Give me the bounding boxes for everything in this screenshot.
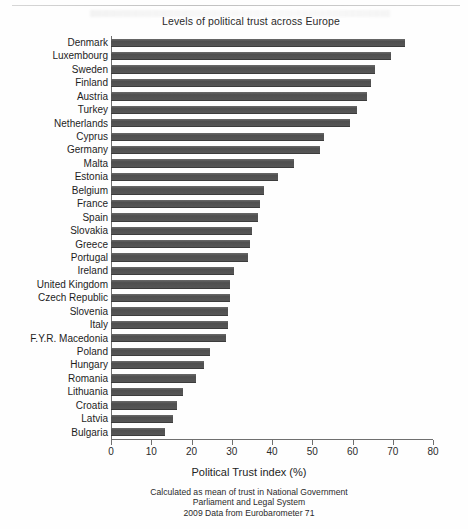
bar (111, 374, 196, 382)
bar-row: Finland (111, 76, 433, 89)
bar-row: Portugal (111, 251, 433, 264)
category-label: Austria (0, 90, 108, 103)
x-tick-label: 30 (226, 446, 237, 457)
bar (111, 213, 258, 221)
bar (111, 361, 204, 369)
bar (111, 334, 226, 342)
bar-row: Italy (111, 318, 433, 331)
category-label: Romania (0, 372, 108, 385)
x-tick (272, 440, 273, 445)
bar (111, 52, 391, 60)
bar-row: Bulgaria (111, 426, 433, 439)
bar (111, 159, 294, 167)
x-tick (312, 440, 313, 445)
bar-row: Austria (111, 90, 433, 103)
x-tick (232, 440, 233, 445)
figure-caption-cropped (96, 522, 372, 528)
category-label: United Kingdom (0, 278, 108, 291)
bar-row: Latvia (111, 412, 433, 425)
x-tick-label: 20 (186, 446, 197, 457)
category-label: Poland (0, 345, 108, 358)
bar-row: Greece (111, 238, 433, 251)
category-label: Croatia (0, 399, 108, 412)
x-tick (393, 440, 394, 445)
bar-row: Estonia (111, 170, 433, 183)
bar-rows: DenmarkLuxembourgSwedenFinlandAustriaTur… (111, 36, 433, 439)
x-axis-title: Political Trust index (%) (0, 466, 468, 478)
bar (111, 388, 183, 396)
bar (111, 267, 234, 275)
bar-row: Ireland (111, 264, 433, 277)
category-label: Slovenia (0, 305, 108, 318)
category-label: Spain (0, 211, 108, 224)
bar-row: Czech Republic (111, 291, 433, 304)
x-tick-label: 40 (266, 446, 277, 457)
caption-line-2: Parliament and Legal System (30, 497, 468, 507)
x-tick-label: 80 (427, 446, 438, 457)
bar-row: Romania (111, 372, 433, 385)
bar (111, 186, 264, 194)
category-label: Sweden (0, 63, 108, 76)
bar-row: Malta (111, 157, 433, 170)
bar-row: F.Y.R. Macedonia (111, 332, 433, 345)
category-label: Cyprus (0, 130, 108, 143)
bar-row: Slovenia (111, 305, 433, 318)
category-label: Italy (0, 318, 108, 331)
category-label: Estonia (0, 170, 108, 183)
x-tick (192, 440, 193, 445)
bar (111, 321, 228, 329)
bar (111, 240, 250, 248)
x-tick-label: 70 (387, 446, 398, 457)
bar-row: Germany (111, 143, 433, 156)
category-label: Hungary (0, 358, 108, 371)
chart-caption: Calculated as mean of trust in National … (0, 487, 468, 518)
bar-row: Sweden (111, 63, 433, 76)
category-label: Czech Republic (0, 291, 108, 304)
chart-title: Levels of political trust across Europe (0, 15, 468, 27)
x-tick (433, 440, 434, 445)
bar (111, 65, 375, 73)
bar (111, 119, 350, 127)
bar (111, 39, 405, 47)
scan-artifact-rule (12, 5, 460, 6)
bar (111, 348, 210, 356)
x-tick-label: 60 (347, 446, 358, 457)
x-tick (353, 440, 354, 445)
category-label: Denmark (0, 36, 108, 49)
category-label: F.Y.R. Macedonia (0, 332, 108, 345)
bar-row: France (111, 197, 433, 210)
bar-row: Belgium (111, 184, 433, 197)
category-label: Finland (0, 76, 108, 89)
bar (111, 307, 228, 315)
bar (111, 428, 165, 436)
bar-row: Luxembourg (111, 49, 433, 62)
bar-row: Netherlands (111, 117, 433, 130)
bar-row: Poland (111, 345, 433, 358)
x-tick (111, 440, 112, 445)
category-label: Portugal (0, 251, 108, 264)
bar-row: Slovakia (111, 224, 433, 237)
category-label: Lithuania (0, 385, 108, 398)
category-label: Bulgaria (0, 426, 108, 439)
category-label: Belgium (0, 184, 108, 197)
bar (111, 106, 357, 114)
x-tick (151, 440, 152, 445)
plot-area: DenmarkLuxembourgSwedenFinlandAustriaTur… (111, 36, 433, 439)
bar-row: Denmark (111, 36, 433, 49)
bar (111, 294, 230, 302)
bar (111, 200, 260, 208)
bar (111, 92, 367, 100)
category-label: Luxembourg (0, 49, 108, 62)
figure-page: Levels of political trust across Europe … (0, 0, 468, 529)
caption-line-1: Calculated as mean of trust in National … (30, 487, 468, 497)
bar (111, 173, 278, 181)
bar-row: Croatia (111, 399, 433, 412)
category-label: France (0, 197, 108, 210)
bar-row: United Kingdom (111, 278, 433, 291)
category-label: Netherlands (0, 117, 108, 130)
category-label: Latvia (0, 412, 108, 425)
bar (111, 133, 324, 141)
category-label: Ireland (0, 264, 108, 277)
bar-row: Turkey (111, 103, 433, 116)
bar (111, 401, 177, 409)
